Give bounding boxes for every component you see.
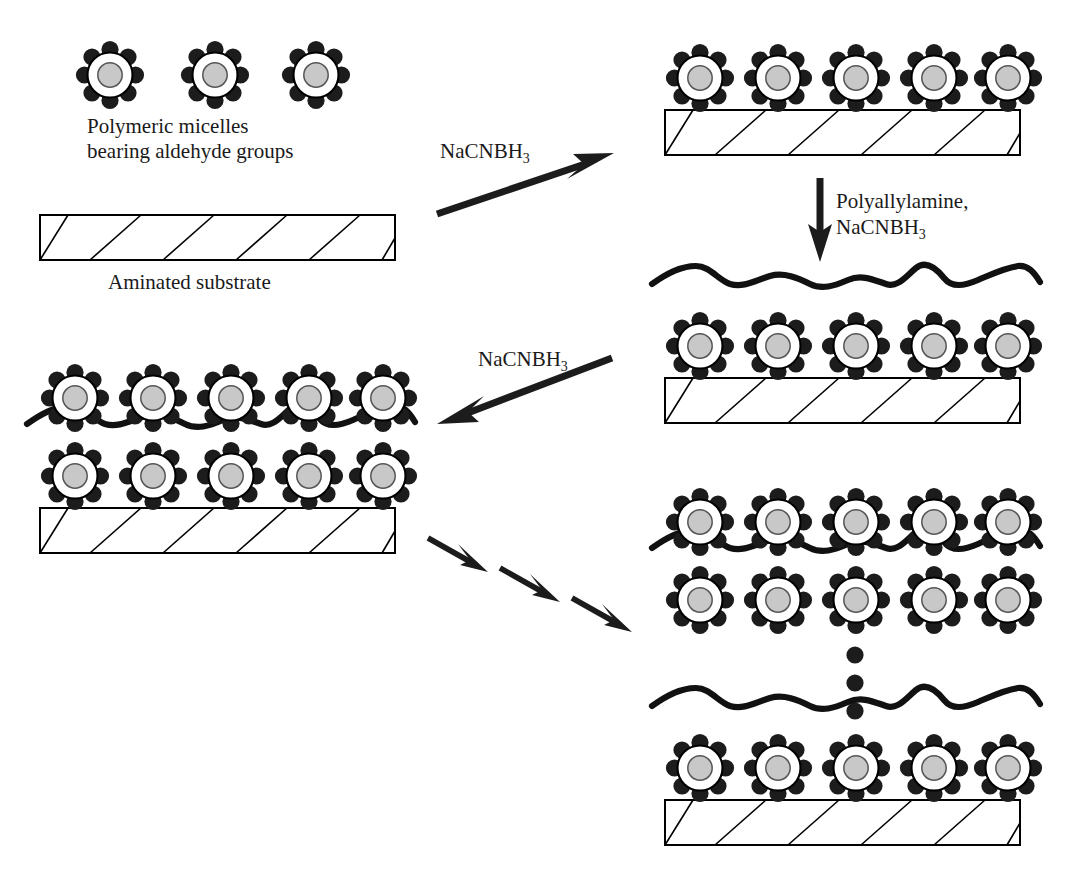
micelle-icon xyxy=(822,312,890,380)
stage-bilayer-floating xyxy=(652,488,1042,634)
hatched-substrate-icon xyxy=(40,215,395,260)
micelle-icon xyxy=(666,312,734,380)
micelle-icon xyxy=(119,442,187,510)
ellipsis-dot xyxy=(846,674,863,691)
vertical-ellipsis xyxy=(846,646,863,719)
micelle-icon xyxy=(666,734,734,802)
micelle-icon xyxy=(744,44,812,112)
label-reagent-2-line2: NaCNBH3 xyxy=(836,215,926,242)
figure-canvas: Polymeric micelles bearing aldehyde grou… xyxy=(0,0,1074,882)
micelle-icon xyxy=(974,312,1042,380)
micelle-icon xyxy=(119,364,187,432)
micelle-icon xyxy=(349,442,417,510)
micelle-icon xyxy=(900,734,968,802)
reaction-scheme-diagram: Polymeric micelles bearing aldehyde grou… xyxy=(0,0,1074,882)
label-reagent-2-line1: Polyallylamine, xyxy=(836,189,968,213)
micelle-icon xyxy=(197,442,265,510)
micelle-icon xyxy=(974,566,1042,634)
hatched-substrate-icon xyxy=(665,110,1020,155)
polymer-chain-icon xyxy=(652,687,1040,709)
micelle-icon xyxy=(900,312,968,380)
micelle-icon xyxy=(900,488,968,556)
micelle-icon xyxy=(974,44,1042,112)
micelle-icon xyxy=(744,566,812,634)
arrow-repeat-step-1 xyxy=(428,538,488,572)
micelle-icon xyxy=(282,41,350,109)
micelle-icon xyxy=(666,488,734,556)
hatched-substrate-icon xyxy=(665,378,1020,423)
label-reagent-3: NaCNBH3 xyxy=(478,347,568,374)
micelle-icon xyxy=(744,488,812,556)
hatched-substrate-icon xyxy=(665,800,1020,845)
micelle-icon xyxy=(974,734,1042,802)
micelle-icon xyxy=(197,364,265,432)
micelle-icon xyxy=(822,734,890,802)
label-aminated-substrate: Aminated substrate xyxy=(108,270,271,294)
micelle-icon xyxy=(41,364,109,432)
stage-free-micelles xyxy=(76,41,350,109)
micelle-icon xyxy=(744,312,812,380)
arrow-repeat-step-2 xyxy=(500,568,560,602)
stage-bilayer-on-substrate xyxy=(27,364,417,553)
ellipsis-dot xyxy=(846,702,863,719)
stage-monolayer-on-substrate xyxy=(665,44,1042,155)
arrow-repeat-step-3 xyxy=(572,598,632,632)
micelle-icon xyxy=(181,41,249,109)
micelle-icon xyxy=(822,488,890,556)
micelle-icon xyxy=(822,44,890,112)
label-reagent-1: NaCNBH3 xyxy=(440,139,530,166)
micelle-icon xyxy=(76,41,144,109)
micelle-icon xyxy=(974,488,1042,556)
stage-monolayer-with-chain xyxy=(652,265,1042,423)
micelle-icon xyxy=(822,566,890,634)
micelle-icon xyxy=(744,734,812,802)
polymer-chain-icon xyxy=(652,265,1040,287)
label-polymeric-micelles-line2: bearing aldehyde groups xyxy=(87,139,293,163)
micelle-icon xyxy=(666,566,734,634)
micelle-icon xyxy=(275,364,343,432)
label-polymeric-micelles-line1: Polymeric micelles xyxy=(87,114,249,138)
micelle-icon xyxy=(349,364,417,432)
arrow-add-polyallylamine xyxy=(808,178,832,262)
micelle-icon xyxy=(41,442,109,510)
micelle-icon xyxy=(275,442,343,510)
stage-bare-substrate xyxy=(40,215,395,260)
micelle-icon xyxy=(900,566,968,634)
hatched-substrate-icon xyxy=(40,508,395,553)
micelle-icon xyxy=(666,44,734,112)
micelle-icon xyxy=(900,44,968,112)
ellipsis-dot xyxy=(846,646,863,663)
